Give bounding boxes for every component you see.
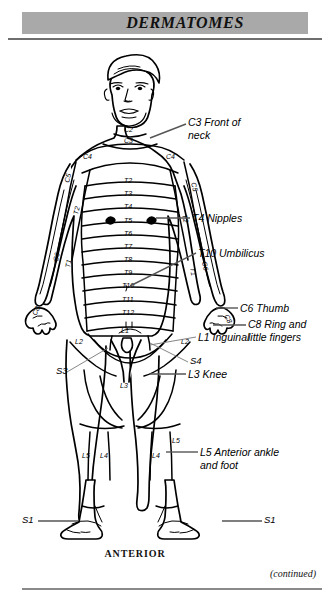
callout-l1-inguinal: L1 Inguinal — [198, 331, 249, 344]
segment-label-t7: T7 — [124, 243, 133, 250]
anterior-body-diagram: C2 C3 C4 C4 T2 T3 T4 T5 T6 T7 T8 T9 T10 … — [0, 40, 330, 550]
callout-s4: S4 — [190, 355, 202, 368]
callout-s1-left: S1 — [22, 514, 34, 527]
segment-label-t3: T3 — [124, 190, 132, 197]
dermatome-figure-page: DERMATOMES — [0, 0, 330, 604]
segment-label-t12: T12 — [122, 309, 134, 316]
page-title: DERMATOMES — [22, 12, 308, 34]
segment-label-t11: T11 — [122, 296, 134, 303]
callout-t10-umbilicus: T10 Umbilicus — [198, 247, 265, 260]
callout-l3-knee: L3 Knee — [188, 368, 227, 381]
segment-label-c2: C2 — [124, 126, 133, 133]
callout-t4-nipples: T4 Nipples — [192, 212, 242, 225]
view-caption: ANTERIOR — [0, 548, 270, 559]
segment-label-l2-left: L2 — [75, 338, 83, 345]
callout-l5-anterior-ankle-foot: L5 Anterior ankle and foot — [200, 446, 279, 471]
segment-label-c3: C3 — [124, 137, 133, 144]
footer-rule — [22, 588, 322, 590]
callout-c6-thumb: C6 Thumb — [240, 302, 289, 315]
segment-label-c4-right: C4 — [166, 153, 175, 160]
segment-label-t6: T6 — [124, 230, 132, 237]
callout-s3: S3 — [56, 365, 68, 378]
segment-label-l5-left: L5 — [82, 452, 90, 459]
segment-label-l3-thigh: L3 — [120, 382, 128, 389]
segment-label-t1-right: T1 — [189, 267, 197, 276]
segment-label-t5: T5 — [124, 217, 132, 224]
callout-s1-right: S1 — [264, 514, 276, 527]
callout-c3-front-of-neck: C3 Front of neck — [188, 116, 241, 141]
segment-label-t8: T8 — [124, 256, 132, 263]
segment-label-t9: T9 — [124, 269, 132, 276]
segment-label-l5-right: L5 — [172, 437, 180, 444]
segment-label-l4-left: L4 — [100, 452, 108, 459]
segment-label-t1-left: T1 — [64, 259, 72, 268]
segment-label-c4-left: C4 — [83, 153, 92, 160]
segment-label-c6-right: C6 — [201, 261, 209, 271]
continued-note: (continued) — [270, 568, 316, 579]
segment-label-l1-pelvis: L1 — [121, 327, 129, 334]
segment-label-t4: T4 — [124, 203, 132, 210]
callout-c8-ring-little-fingers: C8 Ring and little fingers — [248, 318, 306, 343]
segment-label-l4-right: L4 — [152, 452, 160, 459]
leader-c3 — [150, 124, 186, 138]
segment-label-t2: T2 — [124, 177, 132, 184]
